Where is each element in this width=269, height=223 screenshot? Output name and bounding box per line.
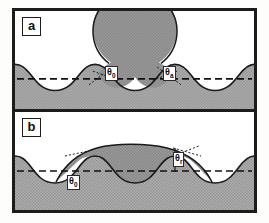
theta-subscript: 0 [112, 72, 116, 79]
theta-subscript: a [170, 72, 174, 79]
panel-a: a θ0 θa [15, 11, 254, 112]
angle-label-theta-zero-a: θ0 [105, 66, 118, 81]
angle-label-theta-advancing-a: θa [163, 66, 176, 81]
angle-label-theta-zero-b: θ0 [67, 175, 80, 190]
figure-container: a θ0 θa [0, 0, 269, 223]
panel-b-drawing [15, 112, 254, 210]
panel-a-drawing [15, 11, 254, 109]
panel-b: b θ0 θr [15, 112, 254, 210]
figure-frame: a θ0 θa [12, 8, 257, 213]
angle-label-theta-receding-b: θr [173, 152, 184, 167]
theta-subscript: 0 [74, 181, 78, 188]
theta-subscript: r [180, 158, 183, 165]
panel-tag-a: a [22, 17, 41, 36]
panel-tag-b: b [22, 118, 41, 137]
